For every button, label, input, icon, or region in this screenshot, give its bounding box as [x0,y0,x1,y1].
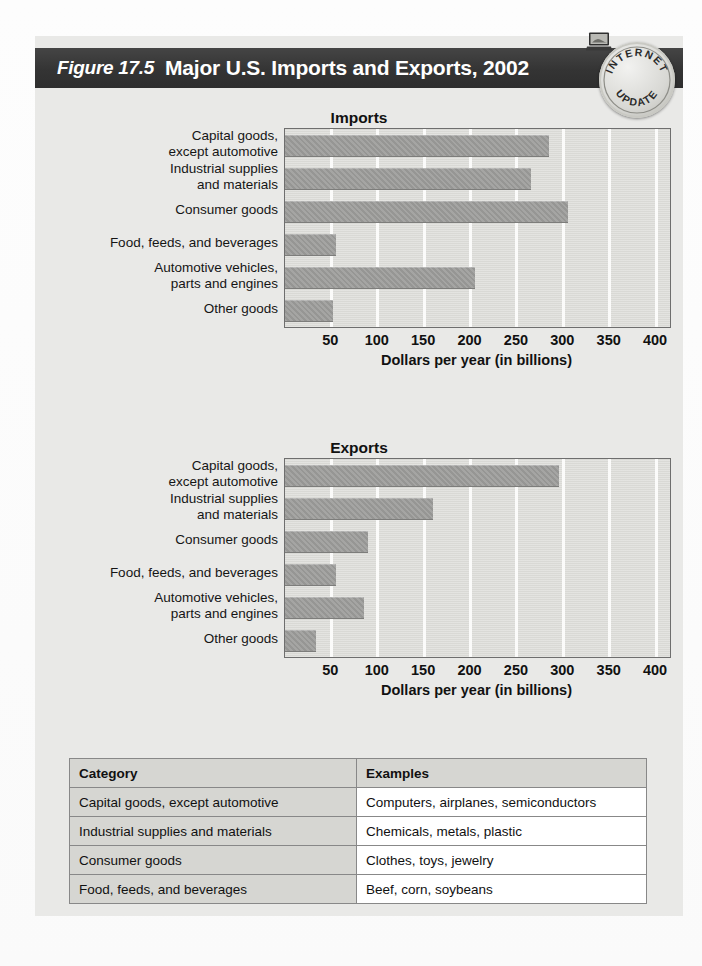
category-label: Other goods [38,631,278,647]
x-tick-label: 350 [584,662,634,678]
category-label: Capital goods, except automotive [38,128,278,159]
gridline [330,459,333,657]
table-cell-examples: Beef, corn, soybeans [357,875,647,904]
chart-title-exports: Exports [35,439,683,457]
table-header-row: Category Examples [70,759,647,788]
table-head: Category Examples [70,759,647,788]
gridline [423,459,426,657]
gridline [330,129,333,327]
plot-area-imports [284,128,671,328]
x-axis-title-imports: Dollars per year (in billions) [284,352,669,368]
x-tick-label: 150 [398,332,448,348]
bar [285,201,568,223]
gridline [469,459,472,657]
x-tick-label: 400 [630,662,680,678]
bar [285,498,433,520]
bar [285,234,336,256]
gridline [376,459,379,657]
table-cell-examples: Chemicals, metals, plastic [357,817,647,846]
svg-text:UPDATE: UPDATE [614,87,660,108]
gridline [608,459,611,657]
gridline [469,129,472,327]
gridline [515,459,518,657]
bar [285,300,333,322]
table-cell-examples: Clothes, toys, jewelry [357,846,647,875]
category-label: Industrial supplies and materials [38,161,278,192]
x-tick-label: 100 [352,332,402,348]
table-cell-category: Consumer goods [70,846,357,875]
gridline [562,459,565,657]
seal-bottom-text: UPDATE [614,87,660,108]
x-tick-label: 200 [445,662,495,678]
laptop-icon [586,32,612,53]
category-label: Food, feeds, and beverages [38,235,278,251]
x-tick-label: 50 [305,662,355,678]
page-sheet: Figure 17.5 Major U.S. Imports and Expor… [0,0,702,966]
plot-area-exports [284,458,671,658]
gridline [562,129,565,327]
seal-text-ring: INTERNET UPDATE [599,42,675,118]
x-tick-label: 100 [352,662,402,678]
category-label: Consumer goods [38,202,278,218]
x-tick-label: 250 [491,662,541,678]
x-axis-title-exports: Dollars per year (in billions) [284,682,669,698]
category-label: Capital goods, except automotive [38,458,278,489]
category-label: Automotive vehicles, parts and engines [38,590,278,621]
table-cell-examples: Computers, airplanes, semiconductors [357,788,647,817]
table-row: Capital goods, except automotiveComputer… [70,788,647,817]
x-tick-label: 50 [305,332,355,348]
figure-number: Figure 17.5 [57,57,154,79]
bar [285,168,531,190]
table-header-category: Category [70,759,357,788]
table-row: Food, feeds, and beveragesBeef, corn, so… [70,875,647,904]
table-header-examples: Examples [357,759,647,788]
table-cell-category: Industrial supplies and materials [70,817,357,846]
seal-top-text: INTERNET [603,46,671,75]
bar [285,597,364,619]
x-tick-label: 300 [537,662,587,678]
category-label: Automotive vehicles, parts and engines [38,260,278,291]
x-tick-label: 400 [630,332,680,348]
gridline [655,459,658,657]
gridline [655,129,658,327]
bar [285,267,475,289]
gridline [608,129,611,327]
bar [285,465,559,487]
category-label: Consumer goods [38,532,278,548]
svg-text:INTERNET: INTERNET [603,46,671,75]
table-cell-category: Food, feeds, and beverages [70,875,357,904]
bar [285,135,549,157]
x-tick-label: 300 [537,332,587,348]
category-label: Industrial supplies and materials [38,491,278,522]
table-row: Consumer goodsClothes, toys, jewelry [70,846,647,875]
table-row: Industrial supplies and materialsChemica… [70,817,647,846]
gridline [423,129,426,327]
table-cell-category: Capital goods, except automotive [70,788,357,817]
x-tick-label: 350 [584,332,634,348]
table-body: Capital goods, except automotiveComputer… [70,788,647,904]
bar [285,564,336,586]
bar [285,531,368,553]
figure-title: Major U.S. Imports and Exports, 2002 [165,56,529,80]
figure-header-bar: Figure 17.5 Major U.S. Imports and Expor… [35,48,683,88]
category-label: Other goods [38,301,278,317]
internet-update-badge[interactable]: INTERNET UPDATE [599,42,675,118]
chart-title-imports: Imports [35,109,683,127]
x-tick-label: 250 [491,332,541,348]
category-label: Food, feeds, and beverages [38,565,278,581]
figure-panel: Figure 17.5 Major U.S. Imports and Expor… [35,36,683,916]
x-tick-label: 150 [398,662,448,678]
bar [285,630,316,652]
gridline [515,129,518,327]
examples-table: Category Examples Capital goods, except … [69,758,647,904]
x-tick-label: 200 [445,332,495,348]
gridline [376,129,379,327]
